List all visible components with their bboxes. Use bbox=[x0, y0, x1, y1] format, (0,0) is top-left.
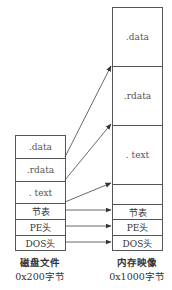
disk-file-title: 磁盘文件 bbox=[5, 255, 75, 269]
arrow-text bbox=[65, 183, 111, 202]
disk-file-size: 0x200字节 bbox=[5, 269, 75, 283]
memory-image-size: 0x1000字节 bbox=[102, 269, 172, 283]
arrow-data bbox=[65, 66, 111, 157]
arrow-rdata bbox=[65, 124, 111, 180]
mapping-arrows bbox=[0, 0, 172, 290]
memory-image-title: 内存映像 bbox=[102, 255, 172, 269]
